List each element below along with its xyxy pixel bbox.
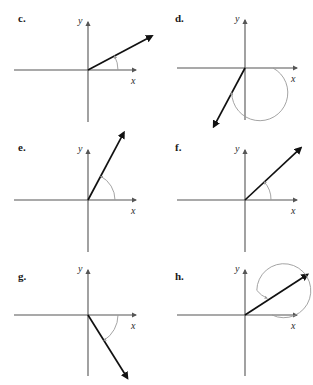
rotation-arc-f: [264, 182, 271, 200]
diagram-g: x y: [0, 258, 156, 385]
figure-grid: c. x y d.: [0, 0, 313, 385]
diagram-d: x y: [157, 0, 313, 128]
terminal-ray-c: [88, 36, 152, 70]
rotation-arc-g: [104, 315, 118, 340]
y-axis-label-h: y: [234, 263, 240, 274]
y-axis-label-f: y: [234, 143, 240, 154]
terminal-ray-g: [88, 315, 127, 378]
panel-d: d. x y: [157, 0, 313, 128]
terminal-ray-d: [214, 68, 245, 126]
terminal-ray-h: [245, 275, 307, 315]
x-axis-label-h: x: [290, 320, 296, 331]
panel-g: g. x y: [0, 258, 156, 385]
panel-h: h. x y: [157, 258, 313, 385]
y-axis-label-c: y: [77, 15, 83, 26]
panel-f: f. x y: [157, 129, 313, 257]
panel-e: e. x y: [0, 129, 156, 257]
panel-c: c. x y: [0, 0, 156, 128]
x-axis-label-e: x: [130, 205, 136, 216]
x-axis-label-d: x: [290, 73, 296, 84]
y-axis-label-d: y: [234, 13, 240, 24]
x-axis-label-g: x: [130, 320, 136, 331]
rotation-arc-c: [115, 56, 119, 70]
diagram-f: x y: [157, 129, 313, 257]
x-axis-label-f: x: [290, 205, 296, 216]
x-axis-label-c: x: [130, 75, 136, 86]
y-axis-label-g: y: [77, 263, 83, 274]
y-axis-label-e: y: [77, 143, 83, 154]
diagram-e: x y: [0, 129, 156, 257]
terminal-ray-f: [245, 148, 301, 200]
rotation-arc-e: [101, 176, 115, 200]
diagram-h: x y: [157, 258, 313, 385]
terminal-ray-e: [88, 133, 124, 200]
diagram-c: x y: [0, 0, 156, 128]
